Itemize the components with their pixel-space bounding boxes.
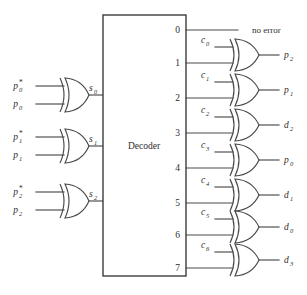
- label-out-p0-base: p: [283, 155, 289, 165]
- label-p1-star-mark: *: [19, 129, 23, 138]
- label-p1-star-sub: 1: [19, 137, 22, 144]
- xor-gate-s1[interactable]: [36, 129, 103, 163]
- xor-gate-c1[interactable]: [215, 74, 279, 106]
- label-out-p1-base: p: [283, 85, 289, 95]
- decoder-port-5: 5: [175, 198, 180, 208]
- decoder-port-7: 7: [175, 263, 180, 273]
- label-out-p0-sub: 0: [290, 160, 294, 167]
- xor-body: [235, 244, 259, 276]
- label-out-d0-sub: 0: [290, 227, 294, 234]
- label-out-d3-base: d: [284, 255, 289, 265]
- xor-back-arc: [230, 244, 234, 276]
- label-p0-sub: 0: [19, 104, 23, 111]
- xor-gate-c3[interactable]: [215, 144, 279, 176]
- decoder-label: Decoder: [128, 141, 161, 151]
- circuit-diagram: p 0 * p 0 s 0 p 1 * p 1 s 1 p 2 * p 2 s …: [0, 0, 307, 295]
- xor-gate-s2[interactable]: [36, 184, 103, 218]
- label-s2-base: s: [89, 189, 93, 199]
- label-c4-sub: 4: [206, 180, 210, 187]
- label-p1-star-base: p: [12, 132, 18, 142]
- decoder-port-0: 0: [175, 25, 180, 35]
- no-error-label: no error: [252, 25, 281, 35]
- xor-back-arc: [230, 211, 234, 243]
- xor-gate-c5[interactable]: [215, 211, 279, 243]
- label-c6-sub: 6: [206, 245, 210, 252]
- label-out-d2-sub: 2: [290, 125, 294, 132]
- xor-body: [235, 39, 259, 71]
- xor-body: [235, 74, 259, 106]
- label-c3-sub: 3: [205, 145, 209, 152]
- decoder-port-6: 6: [175, 230, 180, 240]
- xor-back-arc: [230, 39, 234, 71]
- label-out-d3-sub: 3: [289, 260, 293, 267]
- decoder-port-3: 3: [175, 128, 180, 138]
- label-s2-sub: 2: [94, 194, 98, 201]
- label-p2-sub: 2: [19, 210, 23, 217]
- label-s1-base: s: [89, 134, 93, 144]
- xor-body: [235, 109, 259, 141]
- xor-back-arc: [60, 129, 64, 163]
- label-out-d1-sub: 1: [290, 195, 293, 202]
- label-c2-sub: 2: [206, 110, 210, 117]
- xor-body: [235, 211, 259, 243]
- label-p0-base: p: [12, 99, 18, 109]
- label-c5-sub: 5: [206, 212, 209, 219]
- xor-back-arc: [60, 78, 64, 112]
- xor-back-arc: [230, 74, 234, 106]
- label-p2-star-mark: *: [19, 184, 23, 193]
- label-c1-sub: 1: [206, 75, 209, 82]
- xor-body: [235, 179, 259, 211]
- xor-gate-s0[interactable]: [36, 78, 103, 112]
- xor-body: [65, 184, 89, 218]
- label-out-d2-base: d: [284, 120, 289, 130]
- circuit-canvas: p 0 * p 0 s 0 p 1 * p 1 s 1 p 2 * p 2 s …: [0, 0, 307, 295]
- xor-body: [65, 78, 89, 112]
- label-p0-star-sub: 0: [19, 86, 23, 93]
- label-p0-star-base: p: [12, 81, 18, 91]
- label-out-p1-sub: 1: [290, 90, 293, 97]
- label-s1-sub: 1: [94, 139, 97, 146]
- label-p1-base: p: [12, 150, 18, 160]
- xor-back-arc: [230, 179, 234, 211]
- xor-gate-c4[interactable]: [215, 179, 279, 211]
- label-out-p2-base: p: [283, 50, 289, 60]
- decoder-port-4: 4: [175, 163, 180, 173]
- label-p2-base: p: [12, 205, 18, 215]
- decoder-port-2: 2: [175, 93, 180, 103]
- label-out-d1-base: d: [284, 190, 289, 200]
- label-s0-sub: 0: [94, 88, 98, 95]
- label-c0-sub: 0: [206, 40, 210, 47]
- xor-back-arc: [230, 109, 234, 141]
- xor-back-arc: [60, 184, 64, 218]
- label-p2-star-sub: 2: [19, 192, 23, 199]
- xor-body: [235, 144, 259, 176]
- label-p0-star-mark: *: [19, 78, 23, 87]
- xor-gate-c2[interactable]: [215, 109, 279, 141]
- xor-body: [65, 129, 89, 163]
- label-s0-base: s: [89, 83, 93, 93]
- decoder-port-1: 1: [175, 58, 180, 68]
- xor-gate-c6[interactable]: [215, 244, 279, 276]
- label-out-p2-sub: 2: [290, 55, 294, 62]
- xor-back-arc: [230, 144, 234, 176]
- label-out-d0-base: d: [284, 222, 289, 232]
- label-p2-star-base: p: [12, 187, 18, 197]
- xor-gate-c0[interactable]: [215, 39, 279, 71]
- label-p1-sub: 1: [19, 155, 22, 162]
